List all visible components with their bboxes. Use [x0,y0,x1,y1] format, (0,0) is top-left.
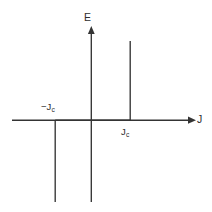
tick-label-positive-critical-current: Jc [121,127,129,137]
vertical-axis-label: E [84,12,91,23]
vertical-axis-arrowhead-icon [88,26,95,34]
horizontal-axis-arrowhead-icon [188,117,196,124]
plot-canvas [0,0,212,212]
tick-label-negative-critical-subscript: c [52,106,55,113]
tick-label-negative-critical-main: −J [41,101,51,112]
horizontal-axis-label: J [197,114,202,125]
ej-characteristic-figure: E J −Jc Jc [0,0,212,212]
tick-label-negative-critical-current: −Jc [41,102,55,112]
tick-label-positive-critical-subscript: c [126,131,129,138]
